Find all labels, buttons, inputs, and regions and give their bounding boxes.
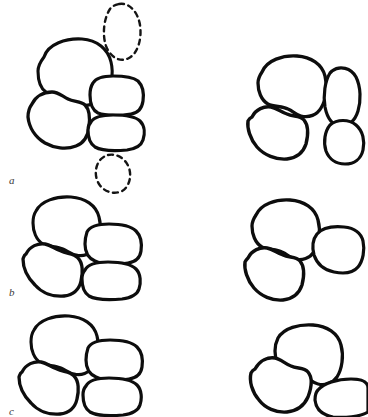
row-label-c: c — [9, 406, 14, 417]
blob-b-top-right — [85, 224, 141, 264]
blob-c-top-right — [86, 340, 142, 380]
figure-root: a b c — [0, 0, 368, 417]
figure-canvas — [0, 0, 368, 417]
blob-a-right-bottom — [88, 115, 144, 151]
blob-c-bottom-right — [83, 378, 141, 416]
blob-a-right-top — [90, 76, 143, 115]
row-label-b: b — [9, 287, 15, 298]
blob-b2-right — [313, 227, 364, 273]
blob-b-bottom-right — [82, 262, 140, 300]
row-a-right-panel — [248, 56, 364, 164]
blob-c2-right-wedge — [315, 379, 368, 417]
blob-a2-right-lower — [325, 121, 364, 165]
row-label-a: a — [9, 175, 15, 186]
blob-a2-right-upper — [324, 68, 360, 126]
